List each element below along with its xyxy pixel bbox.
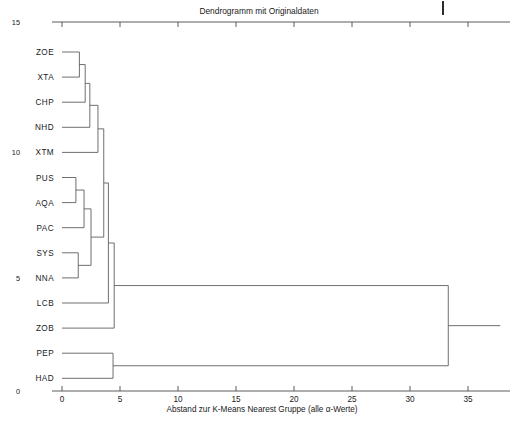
x-tick-label: 5 — [118, 395, 123, 404]
chart-title: Dendrogramm mit Originaldaten — [199, 6, 319, 16]
leaf-label-nna: NNA — [36, 274, 55, 283]
y-tick-label: 10 — [12, 148, 20, 157]
x-tick-label: 20 — [289, 395, 299, 404]
x-tick-label: 0 — [60, 395, 65, 404]
x-tick-label: 10 — [173, 395, 183, 404]
leaf-label-pac: PAC — [37, 224, 54, 233]
leaf-label-nhd: NHD — [35, 123, 54, 132]
x-tick-label: 30 — [405, 395, 415, 404]
leaf-label-lcb: LCB — [37, 299, 54, 308]
y-tick-label: 0 — [16, 387, 20, 396]
leaf-label-sys: SYS — [36, 249, 54, 258]
dendrogram-plot: 05101520253035051015ZOEXTACHPNHDXTMPUSAQ… — [0, 0, 518, 427]
leaf-label-chp: CHP — [36, 98, 55, 107]
x-axis-title: Abstand zur K-Means Nearest Gruppe (alle… — [166, 405, 357, 414]
leaf-label-aqa: AQA — [36, 199, 55, 208]
y-tick-label: 15 — [12, 18, 20, 27]
leaf-label-zoe: ZOE — [36, 48, 54, 57]
leaf-label-pus: PUS — [36, 174, 54, 183]
x-tick-label: 25 — [347, 395, 357, 404]
leaf-label-zob: ZOB — [36, 324, 54, 333]
y-tick-label: 5 — [16, 274, 20, 283]
dendrogram-figure: 05101520253035051015ZOEXTACHPNHDXTMPUSAQ… — [0, 0, 518, 427]
leaf-label-xta: XTA — [37, 73, 54, 82]
leaf-label-xtm: XTM — [36, 148, 54, 157]
x-tick-label: 15 — [231, 395, 241, 404]
x-tick-label: 35 — [463, 395, 473, 404]
leaf-label-pep: PEP — [36, 349, 54, 358]
leaf-label-had: HAD — [36, 374, 55, 383]
